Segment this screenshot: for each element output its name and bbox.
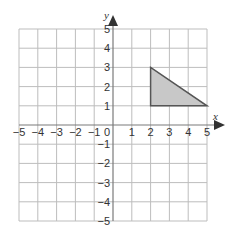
y-tick-label: 5 xyxy=(104,23,110,35)
axes: x y xyxy=(19,9,225,221)
y-tick-label: −5 xyxy=(97,215,110,227)
y-tick-label: 4 xyxy=(104,42,110,54)
x-tick-label: −5 xyxy=(13,126,26,138)
coordinate-grid: x y −5−4−3−2−1012345−5−4−3−2−112345 xyxy=(0,0,230,234)
y-tick-label: 2 xyxy=(104,81,110,93)
x-tick-label: 3 xyxy=(166,126,172,138)
x-tick-label: 1 xyxy=(129,126,135,138)
x-tick-label: −3 xyxy=(50,126,63,138)
y-tick-label: −4 xyxy=(97,196,110,208)
y-tick-label: 1 xyxy=(104,100,110,112)
x-tick-label: 4 xyxy=(185,126,191,138)
y-tick-label: −1 xyxy=(97,138,110,150)
y-tick-label: −2 xyxy=(97,157,110,169)
x-tick-label: 0 xyxy=(104,126,110,138)
y-tick-label: 3 xyxy=(104,61,110,73)
x-tick-label: −2 xyxy=(69,126,82,138)
x-tick-label: 5 xyxy=(204,126,210,138)
x-tick-label: 2 xyxy=(148,126,154,138)
x-tick-label: −1 xyxy=(88,126,101,138)
y-tick-label: −3 xyxy=(97,177,110,189)
x-tick-label: −4 xyxy=(32,126,45,138)
x-axis-label: x xyxy=(212,110,218,122)
y-axis-label: y xyxy=(103,9,109,21)
